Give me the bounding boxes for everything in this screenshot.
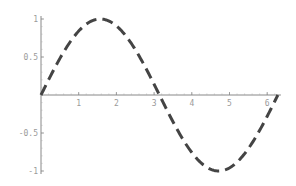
y-tick-label: 0.5 — [24, 53, 39, 62]
axes — [41, 16, 281, 174]
chart-svg: 12345610.5-0.5-1 — [0, 0, 296, 186]
y-tick-label: -1 — [28, 167, 38, 176]
x-tick-label: 5 — [227, 99, 232, 108]
x-tick-label: 3 — [152, 99, 157, 108]
x-tick-label: 4 — [189, 99, 194, 108]
sine-chart: 12345610.5-0.5-1 — [0, 0, 296, 186]
y-tick-label: -0.5 — [19, 129, 38, 138]
x-tick-label: 1 — [76, 99, 81, 108]
x-tick-label: 2 — [114, 99, 119, 108]
y-tick-label: 1 — [33, 15, 38, 24]
x-tick-label: 6 — [265, 99, 270, 108]
